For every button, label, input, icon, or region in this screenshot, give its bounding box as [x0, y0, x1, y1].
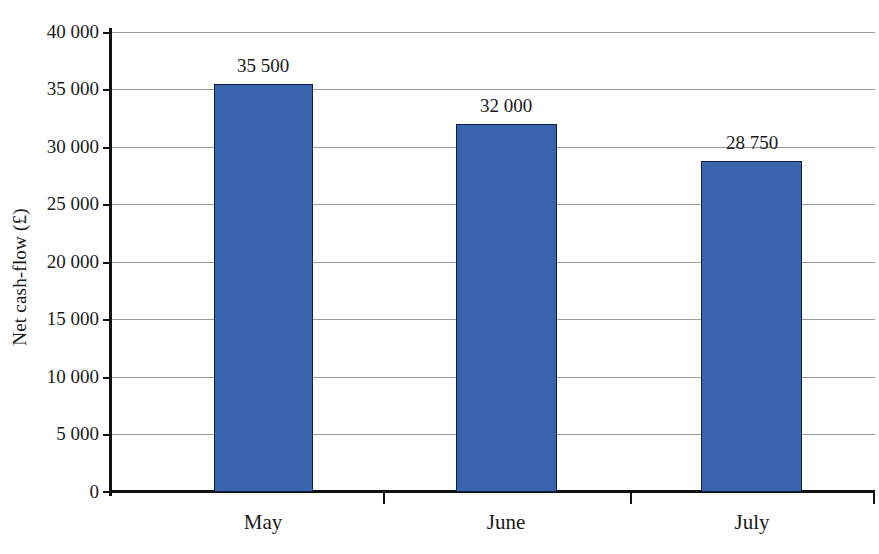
y-tick-label: 20 000	[4, 251, 99, 273]
y-tick-label: 5 000	[4, 423, 99, 445]
y-axis-tick-labels: 40 000 35 000 30 000 25 000 20 000 15 00…	[0, 0, 99, 554]
gridline	[112, 32, 875, 33]
y-tick-label: 15 000	[4, 308, 99, 330]
y-axis-line	[109, 28, 112, 496]
bar-chart: Net cash-flow (£) 40 000 35 000 30 000 2…	[0, 0, 879, 554]
x-axis-category-label-june: June	[487, 510, 526, 535]
y-tick-label: 30 000	[4, 136, 99, 158]
y-tick-label: 40 000	[4, 21, 99, 43]
x-axis-category-label-july: July	[734, 510, 769, 535]
y-tick-label: 25 000	[4, 193, 99, 215]
bar-value-label: 28 750	[726, 132, 778, 154]
y-tick-label: 10 000	[4, 366, 99, 388]
bar-value-label: 32 000	[480, 95, 532, 117]
bar-value-label: 35 500	[237, 55, 289, 77]
y-tick-label: 35 000	[4, 78, 99, 100]
x-axis-tick-mark	[630, 493, 632, 504]
bar-may[interactable]	[214, 84, 313, 492]
y-tick-label: 0	[4, 481, 99, 503]
bar-july[interactable]	[701, 161, 802, 492]
x-axis-category-label-may: May	[244, 510, 283, 535]
x-axis-tick-mark	[873, 493, 875, 504]
bar-june[interactable]	[456, 124, 557, 492]
x-axis-tick-mark	[383, 493, 385, 504]
